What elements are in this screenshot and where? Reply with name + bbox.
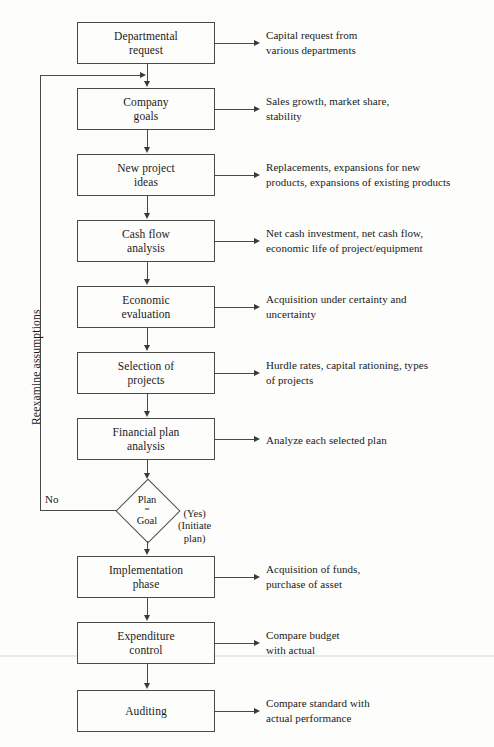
connector-arrow-icon xyxy=(144,473,150,479)
flowchart-canvas: Departmental request Company goals New p… xyxy=(0,0,494,747)
node-label: Company goals xyxy=(119,95,172,124)
node-label: Cash flow analysis xyxy=(118,227,174,256)
decision-label: Plan = Goal xyxy=(116,479,178,541)
connector-line xyxy=(147,394,148,412)
annotation-arrow-icon xyxy=(254,708,260,714)
node-label: Economic evaluation xyxy=(118,293,175,322)
annotation-arrow-icon xyxy=(254,304,260,310)
connector-arrow-icon xyxy=(144,81,150,87)
feedback-line-horizontal-top xyxy=(40,75,141,76)
edge-label-no: No xyxy=(45,493,58,506)
feedback-line-horizontal-bottom xyxy=(40,510,117,511)
node-departmental-request[interactable]: Departmental request xyxy=(77,22,215,64)
scan-artifact-line xyxy=(0,656,494,657)
connector-line xyxy=(147,328,148,346)
node-implementation-phase[interactable]: Implementation phase xyxy=(77,556,215,598)
annotation-arrow-icon xyxy=(254,238,260,244)
feedback-line-vertical xyxy=(40,75,41,511)
annotation-expenditure-control: Compare budget with actual xyxy=(266,628,340,657)
feedback-arrow-icon xyxy=(140,72,146,78)
connector-line xyxy=(147,460,148,474)
annotation-line xyxy=(215,577,255,578)
annotation-auditing: Compare standard with actual performance xyxy=(266,696,370,725)
node-company-goals[interactable]: Company goals xyxy=(77,88,215,130)
annotation-line xyxy=(215,711,255,712)
node-new-project-ideas[interactable]: New project ideas xyxy=(77,154,215,196)
connector-line xyxy=(147,130,148,148)
node-economic-evaluation[interactable]: Economic evaluation xyxy=(77,286,215,328)
node-label: Implementation phase xyxy=(105,563,187,592)
annotation-arrow-icon xyxy=(254,640,260,646)
connector-line xyxy=(147,262,148,280)
annotation-arrow-icon xyxy=(254,436,260,442)
annotation-departmental-request: Capital request from various departments xyxy=(266,28,357,57)
loop-caption-reexamine-assumptions: Reexamine assumptions xyxy=(30,309,42,425)
annotation-new-project-ideas: Replacements, expansions for new product… xyxy=(266,160,450,189)
annotation-line xyxy=(215,643,255,644)
annotation-arrow-icon xyxy=(254,40,260,46)
annotation-selection-of-projects: Hurdle rates, capital rationing, types o… xyxy=(266,358,428,387)
node-label: New project ideas xyxy=(113,161,179,190)
connector-line xyxy=(147,664,148,684)
node-label: Financial plan analysis xyxy=(109,425,184,454)
node-cash-flow-analysis[interactable]: Cash flow analysis xyxy=(77,220,215,262)
connector-arrow-icon xyxy=(144,683,150,689)
node-label: Selection of projects xyxy=(114,359,178,388)
connector-line xyxy=(147,598,148,616)
node-label: Auditing xyxy=(121,704,171,718)
annotation-arrow-icon xyxy=(254,106,260,112)
annotation-company-goals: Sales growth, market share, stability xyxy=(266,94,389,123)
connector-arrow-icon xyxy=(144,549,150,555)
connector-arrow-icon xyxy=(144,345,150,351)
connector-line xyxy=(147,64,148,82)
connector-arrow-icon xyxy=(144,147,150,153)
annotation-financial-plan-analysis: Analyze each selected plan xyxy=(266,433,387,448)
connector-arrow-icon xyxy=(144,615,150,621)
annotation-line xyxy=(215,439,255,440)
decision-plan-equals-goal[interactable]: Plan = Goal xyxy=(116,479,178,541)
annotation-arrow-icon xyxy=(254,172,260,178)
annotation-economic-evaluation: Acquisition under certainty and uncertai… xyxy=(266,292,407,321)
node-expenditure-control[interactable]: Expenditure control xyxy=(77,622,215,664)
decision-operator: = xyxy=(144,505,149,514)
annotation-arrow-icon xyxy=(254,370,260,376)
decision-line-2: Goal xyxy=(137,515,157,526)
annotation-line xyxy=(215,175,255,176)
node-financial-plan-analysis[interactable]: Financial plan analysis xyxy=(77,418,215,460)
connector-arrow-icon xyxy=(144,411,150,417)
annotation-arrow-icon xyxy=(254,574,260,580)
annotation-line xyxy=(215,43,255,44)
annotation-line xyxy=(215,109,255,110)
node-auditing[interactable]: Auditing xyxy=(77,690,215,732)
annotation-line xyxy=(215,241,255,242)
connector-line xyxy=(147,196,148,214)
edge-label-yes: (Yes) (Initiate plan) xyxy=(178,508,211,545)
connector-arrow-icon xyxy=(144,213,150,219)
node-label: Expenditure control xyxy=(113,629,178,658)
annotation-line xyxy=(215,373,255,374)
node-label: Departmental request xyxy=(110,29,182,58)
annotation-cash-flow-analysis: Net cash investment, net cash flow, econ… xyxy=(266,226,423,255)
annotation-implementation-phase: Acquisition of funds, purchase of asset xyxy=(266,562,360,591)
connector-arrow-icon xyxy=(144,279,150,285)
node-selection-of-projects[interactable]: Selection of projects xyxy=(77,352,215,394)
annotation-line xyxy=(215,307,255,308)
